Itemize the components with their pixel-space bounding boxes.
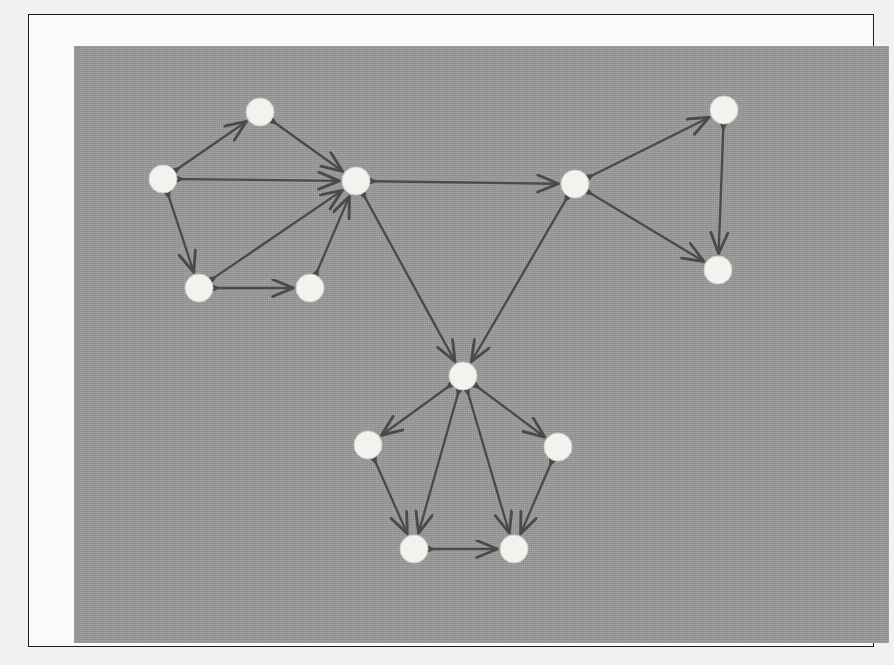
graph-node[interactable] [342,167,370,195]
graph-node[interactable] [561,170,589,198]
graph-node[interactable] [354,431,382,459]
graph-edge [213,191,341,278]
graph-edge [472,199,566,361]
graph-edge [373,181,557,184]
node-circle[interactable] [246,98,274,126]
node-circle[interactable] [400,535,428,563]
graph-edge [317,197,349,272]
node-layer [149,96,738,563]
graph-edge [168,196,193,272]
graph-node[interactable] [149,165,177,193]
graph-edge [590,193,703,261]
graph-svg [0,0,894,665]
graph-node[interactable] [710,96,738,124]
graph-edge [364,196,454,360]
graph-node[interactable] [246,98,274,126]
edge-layer [168,118,723,549]
graph-node[interactable] [544,433,572,461]
node-circle[interactable] [710,96,738,124]
node-circle[interactable] [449,362,477,390]
graph-node[interactable] [400,535,428,563]
graph-edge [180,179,338,181]
node-circle[interactable] [500,535,528,563]
graph-edge [468,393,509,532]
node-circle[interactable] [561,170,589,198]
graph-edge [521,463,551,533]
graph-edge [375,461,407,533]
node-circle[interactable] [149,165,177,193]
node-circle[interactable] [342,167,370,195]
graph-node[interactable] [449,362,477,390]
node-circle[interactable] [296,274,324,302]
graph-edge [382,386,449,434]
graph-node[interactable] [296,274,324,302]
node-circle[interactable] [185,274,213,302]
node-circle[interactable] [704,256,732,284]
graph-edge [591,118,709,176]
graph-edge [177,122,245,169]
node-circle[interactable] [544,433,572,461]
node-circle[interactable] [354,431,382,459]
graph-edge [419,393,458,532]
graph-edge [477,386,544,436]
figure-page [0,0,894,665]
graph-node[interactable] [704,256,732,284]
graph-edge [719,127,724,252]
graph-node[interactable] [185,274,213,302]
graph-edge [274,122,342,171]
graph-node[interactable] [500,535,528,563]
